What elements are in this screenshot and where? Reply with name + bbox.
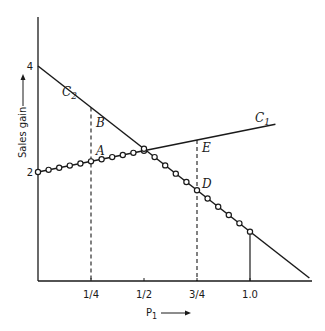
marker-C2-1 <box>152 154 157 159</box>
curve-label-C2: C2 <box>62 85 77 101</box>
marker-C1-9 <box>131 150 136 155</box>
axes <box>38 17 312 281</box>
up-arrow-icon <box>21 74 26 80</box>
y-tick-label: 2 <box>27 167 33 178</box>
marker-C1-5 <box>88 159 93 164</box>
x-axis-title-text: P1 <box>146 307 157 321</box>
point-label-B: B <box>95 116 105 130</box>
chart: 1/41/23/41.024 C2C1ABDE Sales gain P1 <box>0 0 325 331</box>
marker-C1-3 <box>67 163 72 168</box>
marker-C1-1 <box>46 167 51 172</box>
labels: C2C1ABDE <box>62 85 270 191</box>
marker-C1-7 <box>110 154 115 159</box>
marker-C1-2 <box>57 165 62 170</box>
marker-C2-0 <box>141 146 146 151</box>
marker-C2-6 <box>205 196 210 201</box>
curve-label-C1: C1 <box>255 111 270 127</box>
x-tick-label: 1/2 <box>136 289 152 300</box>
marker-C2-9 <box>237 221 242 226</box>
point-label-D: D <box>201 177 212 191</box>
x-tick-label: 3/4 <box>189 289 205 300</box>
marker-C2-2 <box>163 163 168 168</box>
y-axis-title: Sales gain <box>17 74 28 158</box>
point-label-A: A <box>95 144 105 158</box>
x-axis-title: P1 <box>146 307 191 321</box>
marker-C1-4 <box>78 161 83 166</box>
point-label-E: E <box>201 141 211 155</box>
x-tick-label: 1.0 <box>242 289 258 300</box>
marker-C2-8 <box>226 212 231 217</box>
marker-C1-0 <box>35 169 40 174</box>
curve-C1 <box>38 124 275 172</box>
x-tick-label: 1/4 <box>83 289 99 300</box>
marker-C2-10 <box>247 229 252 234</box>
marker-C1-8 <box>120 152 125 157</box>
marker-C2-7 <box>216 204 221 209</box>
marker-C2-3 <box>173 171 178 176</box>
marker-C2-5 <box>194 188 199 193</box>
marker-C2-4 <box>184 179 189 184</box>
y-tick-label: 4 <box>27 61 33 72</box>
curve-markers <box>35 146 252 234</box>
y-axis-title-text: Sales gain <box>17 107 28 158</box>
x-axis-title-subscript: 1 <box>152 312 157 321</box>
right-arrow-icon <box>185 311 191 316</box>
